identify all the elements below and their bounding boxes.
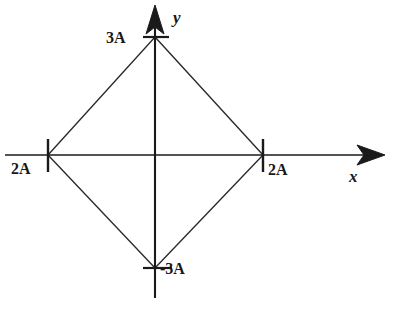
tick-label-2a-left: 2A (11, 161, 31, 177)
x-axis-label: x (349, 168, 358, 185)
tick-label-3a: 3A (106, 30, 126, 46)
y-axis-label: y (173, 9, 181, 26)
diamond-plot-figure: 3A 2A 2A -3A x y (0, 0, 395, 309)
plot-canvas (0, 0, 395, 309)
tick-label-minus-3a: -3A (160, 261, 185, 277)
tick-label-2a-right: 2A (268, 162, 288, 178)
